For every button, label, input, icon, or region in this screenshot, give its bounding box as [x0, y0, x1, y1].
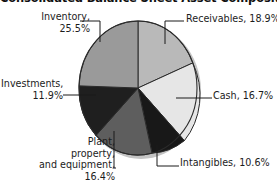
pie-label-investments-line1: Investments,: [1, 78, 63, 90]
pie-label-intangibles-line1: Intangibles, 10.6%: [180, 157, 270, 169]
pie-label-receivables: Receivables, 18.9%: [186, 13, 277, 25]
pie-label-cash: Cash, 16.7%: [213, 90, 273, 102]
pie-label-cash-line1: Cash, 16.7%: [213, 90, 273, 102]
pie-label-ppe-line3: and equipment,: [2, 159, 115, 171]
pie-label-receivables-line1: Receivables, 18.9%: [186, 13, 277, 25]
pie-label-inventory-line2: 25.5%: [6, 23, 90, 35]
pie-label-ppe: Plant, property, and equipment, 16.4%: [2, 136, 115, 182]
pie-label-inventory: Inventory, 25.5%: [6, 11, 90, 34]
pie-label-ppe-line4: 16.4%: [2, 171, 115, 183]
pie-label-investments: Investments, 11.9%: [1, 78, 63, 101]
pie-label-intangibles: Intangibles, 10.6%: [180, 157, 270, 169]
pie-label-investments-line2: 11.9%: [1, 90, 63, 102]
pie-label-inventory-line1: Inventory,: [6, 11, 90, 23]
pie-label-ppe-line1: Plant,: [2, 136, 115, 148]
pie-label-ppe-line2: property,: [2, 148, 115, 160]
pie-chart-figure: Consolidated Balance Sheet Asset Composi…: [0, 0, 277, 193]
